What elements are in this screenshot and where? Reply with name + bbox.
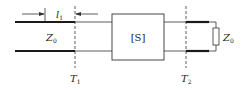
- load-resistor-icon: [213, 28, 219, 45]
- length-label: l1: [56, 9, 63, 21]
- ref-plane-t2-label: T2: [181, 73, 192, 85]
- network-diagram: l1 T1 Z0 [S] T2 Z0: [0, 0, 247, 90]
- arrowhead-left-icon: [75, 12, 81, 16]
- arrowhead-right-icon: [39, 12, 45, 16]
- s-matrix-label: [S]: [131, 32, 146, 43]
- z0-left-label: Z0: [45, 32, 57, 44]
- ref-plane-t1-label: T1: [70, 73, 81, 85]
- z0-load-label: Z0: [222, 32, 234, 44]
